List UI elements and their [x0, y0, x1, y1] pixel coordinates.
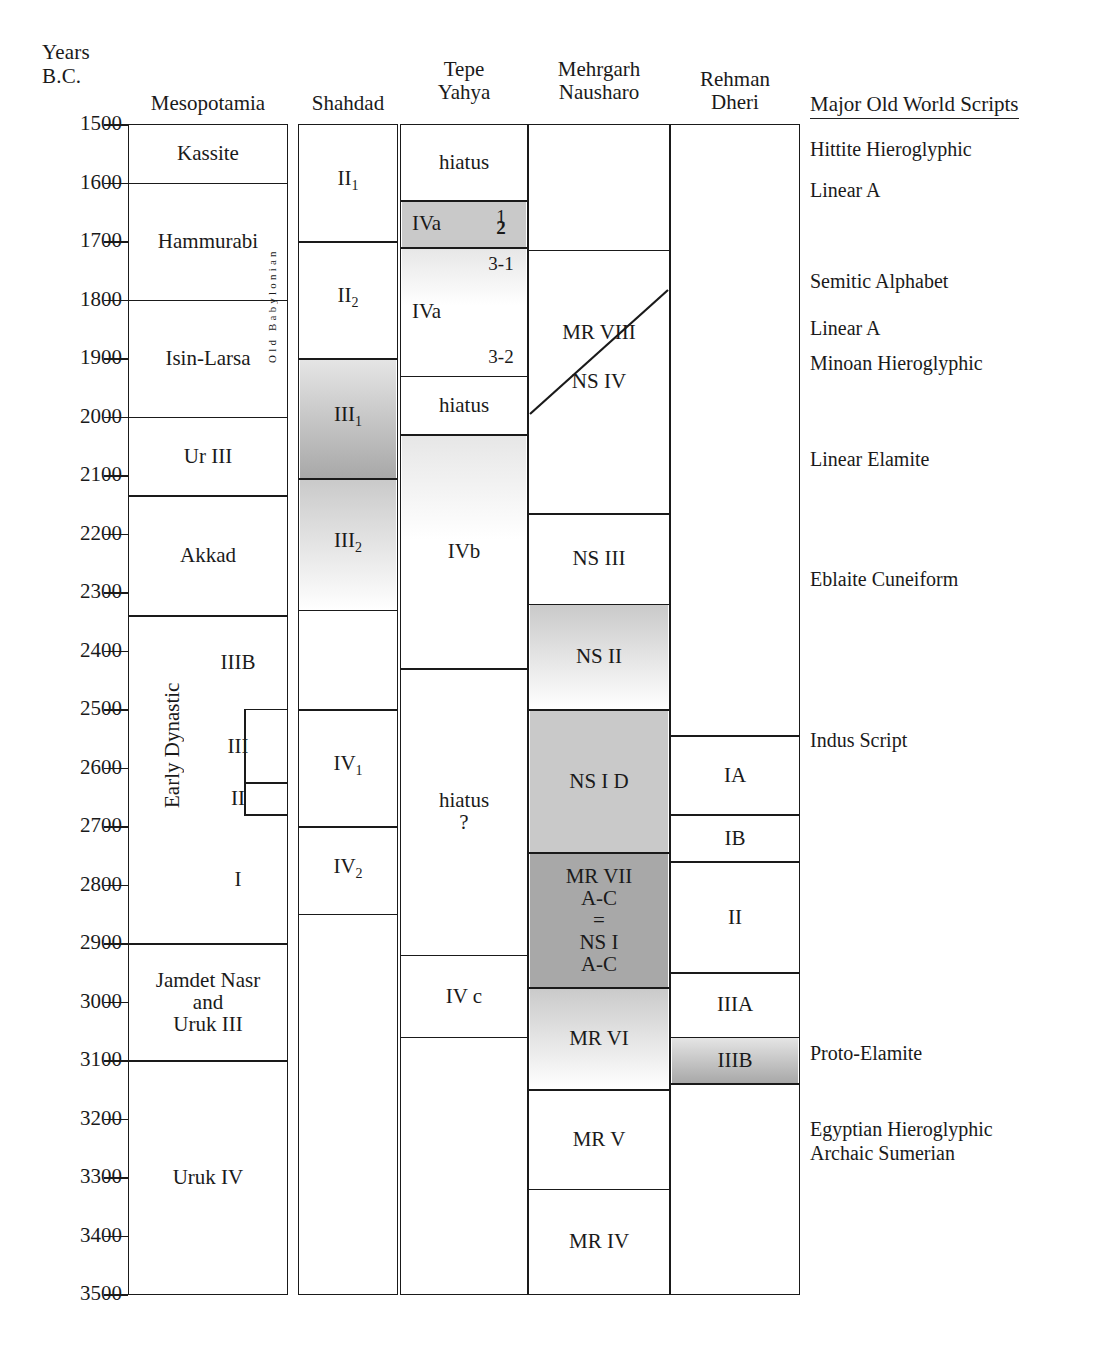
- period-label: Akkad: [180, 544, 236, 566]
- period-divider: [670, 1083, 800, 1085]
- period-label: Isin-Larsa: [165, 347, 250, 369]
- period-sublevel-marker: 2: [480, 217, 522, 239]
- period-divider: [298, 610, 398, 612]
- year-tick-mark: [104, 358, 128, 360]
- period-cell: II1: [298, 124, 398, 241]
- column-header-mehrgarh-line2: Nausharo: [528, 81, 670, 104]
- year-tick-mark: [104, 124, 128, 126]
- period-cell: Jamdet NasrandUruk III: [128, 943, 288, 1060]
- year-tick-mark: [104, 826, 128, 828]
- period-cell: IIIB: [670, 1037, 800, 1084]
- period-label: Kassite: [177, 142, 239, 164]
- subperiod-label: I: [202, 814, 274, 943]
- period-label: Jamdet Nasr: [156, 969, 260, 991]
- year-tick-mark: [104, 417, 128, 419]
- period-cell: Isin-Larsa: [128, 300, 288, 417]
- period-label: Uruk III: [173, 1013, 242, 1035]
- script-label: Egyptian Hieroglyphic: [810, 1118, 993, 1141]
- year-tick-mark: [104, 1002, 128, 1004]
- year-tick-mark: [104, 241, 128, 243]
- period-cell: Ur III: [128, 417, 288, 496]
- period-cell: hiatus?: [400, 668, 528, 955]
- year-tick-mark: [104, 885, 128, 887]
- script-label: Minoan Hieroglyphic: [810, 352, 983, 375]
- year-tick-mark: [104, 183, 128, 185]
- period-cell: hiatus: [400, 124, 528, 200]
- period-label: Uruk IV: [173, 1166, 244, 1188]
- period-cell: IV2: [298, 826, 398, 914]
- script-label: Linear Elamite: [810, 448, 929, 471]
- year-tick-mark: [104, 1236, 128, 1238]
- period-cell: IV c: [400, 955, 528, 1037]
- period-cell: Akkad: [128, 495, 288, 615]
- script-label: Indus Script: [810, 729, 907, 752]
- period-label: IIIA: [717, 993, 753, 1015]
- period-label: III2: [334, 529, 362, 559]
- period-divider: [298, 914, 398, 916]
- period-cell: IB: [670, 814, 800, 861]
- period-cell: IVa: [400, 200, 482, 247]
- period-cell: IVb: [400, 434, 528, 668]
- chronology-chart: Years B.C. 15001600170018001900200021002…: [0, 0, 1096, 1345]
- period-label: II: [728, 906, 742, 928]
- period-label: ?: [459, 811, 468, 833]
- column-header-shahdad: Shahdad: [298, 92, 398, 115]
- year-tick-mark: [104, 1060, 128, 1062]
- period-cell: IV1: [298, 709, 398, 826]
- period-label: Ur III: [184, 445, 232, 467]
- script-label: Linear A: [810, 317, 881, 340]
- divider-diagonal-mehrgarh: [528, 124, 670, 1295]
- axis-title-line1: Years: [42, 40, 90, 64]
- script-label: Hittite Hieroglyphic: [810, 138, 972, 161]
- column-header-tepe-yahya-line1: Tepe: [400, 58, 528, 81]
- column-header-mesopotamia: Mesopotamia: [128, 92, 288, 115]
- side-label-old-babylonian: Old Babylonian: [266, 196, 278, 416]
- script-label: Eblaite Cuneiform: [810, 568, 958, 591]
- period-label: IV c: [446, 985, 482, 1007]
- period-cell: Uruk IV: [128, 1060, 288, 1294]
- period-cell: Kassite: [128, 124, 288, 183]
- period-cell: hiatus: [400, 376, 528, 435]
- script-label: Semitic Alphabet: [810, 270, 948, 293]
- period-label: Hammurabi: [158, 230, 258, 252]
- period-label-early-dynastic: Early Dynastic: [160, 620, 185, 870]
- year-tick-mark: [104, 534, 128, 536]
- subperiod-rule: [244, 709, 246, 814]
- year-tick-mark: [104, 300, 128, 302]
- period-label: IVa: [412, 300, 441, 322]
- axis-title-line2: B.C.: [42, 64, 81, 88]
- period-label: hiatus: [439, 151, 489, 173]
- script-label: Linear A: [810, 179, 881, 202]
- period-label: IV2: [333, 855, 362, 885]
- year-tick-mark: [104, 943, 128, 945]
- period-label: IA: [724, 764, 746, 786]
- period-label: IVb: [448, 540, 481, 562]
- period-cell: III1: [298, 358, 398, 478]
- period-sublevel-marker: 3-1: [480, 253, 522, 275]
- year-tick-mark: [104, 709, 128, 711]
- column-header-mehrgarh-line1: Mehrgarh: [528, 58, 670, 81]
- period-divider: [400, 1037, 528, 1039]
- script-label: Archaic Sumerian: [810, 1142, 955, 1165]
- year-tick-mark: [104, 592, 128, 594]
- column-frame-rehman-dheri: [670, 124, 800, 1295]
- year-tick-mark: [104, 1119, 128, 1121]
- year-tick-mark: [104, 768, 128, 770]
- period-cell: II: [670, 861, 800, 972]
- period-cell: IA: [670, 735, 800, 814]
- column-header-rehman-dheri-line1: Rehman: [670, 68, 800, 91]
- period-label: III1: [334, 403, 362, 433]
- year-tick-mark: [104, 1177, 128, 1179]
- column-header-tepe-yahya-line2: Yahya: [400, 81, 528, 104]
- column-header-scripts: Major Old World Scripts: [810, 92, 1019, 119]
- period-label: and: [193, 991, 223, 1013]
- period-cell: Hammurabi: [128, 183, 288, 300]
- subperiod-label: II: [202, 782, 274, 814]
- period-sublevel-marker: 3-2: [480, 346, 522, 368]
- year-tick-mark: [104, 651, 128, 653]
- period-label: IIIB: [718, 1049, 753, 1071]
- period-label: II1: [338, 167, 359, 197]
- period-label: hiatus: [439, 394, 489, 416]
- column-header-rehman-dheri-line2: Dheri: [670, 91, 800, 114]
- subperiod-label: III: [202, 709, 274, 782]
